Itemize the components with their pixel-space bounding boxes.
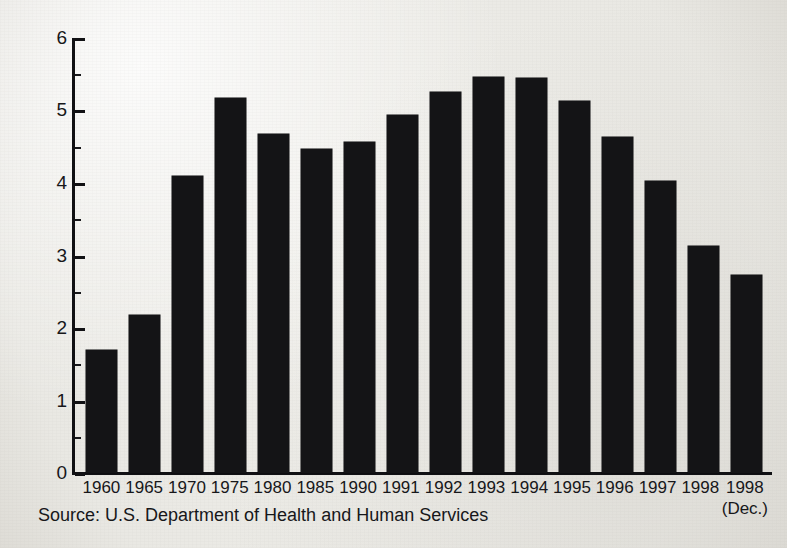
x-tick-label: 1994 (508, 478, 551, 520)
bar (430, 92, 461, 473)
bar-slot (123, 38, 166, 473)
bar (301, 149, 332, 473)
bar (215, 98, 246, 473)
y-tick-label: 1 (56, 390, 67, 412)
bar (344, 142, 375, 473)
source-note: Source: U.S. Department of Health and Hu… (38, 505, 488, 526)
y-tick-label: 6 (56, 27, 67, 49)
x-tick-label: 1998(Dec.) (722, 478, 768, 520)
bar-slot (252, 38, 295, 473)
bar-slot (80, 38, 123, 473)
bar-slot (725, 38, 768, 473)
bar (688, 246, 719, 473)
bar (473, 77, 504, 473)
x-tick-label: 1996 (593, 478, 636, 520)
bar (602, 137, 633, 473)
x-tick-label: 1998 (679, 478, 722, 520)
bar-slot (295, 38, 338, 473)
bar (516, 78, 547, 473)
y-tick-label: 3 (56, 245, 67, 267)
y-tick-label: 4 (56, 172, 67, 194)
bar-slot (639, 38, 682, 473)
x-tick-label: 1995 (551, 478, 594, 520)
bar (645, 181, 676, 473)
bar-slot (424, 38, 467, 473)
bar-slot (209, 38, 252, 473)
bar-slot (381, 38, 424, 473)
x-tick-label: 1997 (636, 478, 679, 520)
x-tick-sublabel: (Dec.) (722, 498, 768, 520)
y-tick-major: 0 (75, 473, 85, 476)
bar-chart-figure: Average Monthly Percentage 6543210 19601… (0, 0, 787, 548)
bar (172, 176, 203, 473)
plot-area: 6543210 (72, 38, 772, 473)
bar-slot (510, 38, 553, 473)
bar-slot (338, 38, 381, 473)
bar (258, 134, 289, 473)
bar-slot (682, 38, 725, 473)
bar (559, 101, 590, 473)
bar-series (75, 38, 772, 473)
bar-slot (596, 38, 639, 473)
y-tick-label: 2 (56, 317, 67, 339)
bar (129, 315, 160, 473)
bar (731, 275, 762, 473)
bar (86, 350, 117, 473)
bar-slot (553, 38, 596, 473)
y-tick-label: 0 (56, 462, 67, 484)
bar-slot (467, 38, 510, 473)
y-tick-label: 5 (56, 99, 67, 121)
bar (387, 115, 418, 473)
bar-slot (166, 38, 209, 473)
y-axis-title: Average Monthly Percentage (10, 0, 36, 56)
